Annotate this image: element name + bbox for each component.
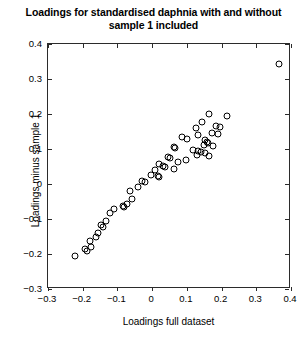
x-tick-mark-top	[117, 287, 118, 291]
data-point	[141, 179, 148, 186]
x-tick-label: 0.2	[214, 293, 227, 304]
y-tick-label: 0.4	[1, 38, 42, 49]
y-tick-mark-right	[285, 114, 289, 115]
x-tick-label: 0.3	[249, 293, 262, 304]
data-point	[205, 153, 212, 160]
y-tick-label: 0.1	[1, 143, 42, 154]
y-tick-mark-right	[285, 184, 289, 185]
data-point	[193, 152, 200, 159]
x-tick-mark-top	[291, 287, 292, 291]
y-tick-label: 0.2	[1, 108, 42, 119]
data-point	[206, 110, 213, 117]
y-tick-mark	[48, 289, 52, 290]
data-point	[194, 132, 201, 139]
x-tick-label: 0.1	[179, 293, 192, 304]
x-tick-mark	[291, 44, 292, 48]
y-tick-mark-right	[285, 79, 289, 80]
scatter-plot-figure: Loadings for standardised daphnia with a…	[0, 0, 307, 339]
y-tick-mark	[48, 79, 52, 80]
x-tick-label: −0.2	[72, 293, 91, 304]
y-tick-mark	[48, 254, 52, 255]
x-tick-mark	[117, 44, 118, 48]
x-tick-mark	[222, 44, 223, 48]
data-point	[193, 125, 200, 132]
y-tick-mark-right	[285, 289, 289, 290]
y-tick-mark	[48, 219, 52, 220]
plot-area	[47, 43, 290, 288]
x-tick-mark	[256, 44, 257, 48]
y-tick-mark-right	[285, 149, 289, 150]
x-tick-mark-top	[256, 287, 257, 291]
data-point	[200, 141, 207, 148]
y-tick-mark	[48, 149, 52, 150]
x-tick-mark	[187, 44, 188, 48]
data-point	[161, 163, 168, 170]
y-tick-label: 0	[1, 178, 42, 189]
data-point	[147, 171, 154, 178]
y-tick-mark-right	[285, 219, 289, 220]
y-tick-label: 0.3	[1, 73, 42, 84]
data-point	[99, 223, 106, 230]
data-point	[107, 209, 114, 216]
y-tick-label: −0.1	[1, 213, 42, 224]
x-tick-mark-top	[222, 287, 223, 291]
x-tick-label: 0.4	[283, 293, 296, 304]
data-point	[183, 156, 190, 163]
data-point	[199, 119, 206, 126]
y-tick-label: −0.3	[1, 283, 42, 294]
data-point	[72, 253, 79, 260]
data-point	[184, 135, 191, 142]
data-point	[171, 165, 178, 172]
data-point	[275, 61, 282, 68]
y-tick-mark-right	[285, 44, 289, 45]
x-axis-label: Loadings full dataset	[47, 316, 290, 327]
y-tick-mark	[48, 44, 52, 45]
data-point	[121, 204, 128, 211]
chart-title-line-1: Loadings for standardised daphnia with a…	[18, 6, 289, 19]
y-tick-mark	[48, 184, 52, 185]
x-tick-label: −0.3	[38, 293, 57, 304]
chart-title: Loadings for standardised daphnia with a…	[18, 6, 289, 32]
data-point	[172, 144, 179, 151]
data-point	[126, 188, 133, 195]
chart-title-line-2: sample 1 included	[18, 19, 289, 32]
x-tick-mark-top	[187, 287, 188, 291]
data-point	[155, 173, 162, 180]
x-tick-mark-top	[83, 287, 84, 291]
x-tick-mark-top	[152, 287, 153, 291]
x-tick-label: 0	[148, 293, 153, 304]
x-tick-mark	[152, 44, 153, 48]
data-point	[83, 247, 90, 254]
data-point	[215, 130, 222, 137]
data-point	[166, 155, 173, 162]
x-tick-label: −0.1	[107, 293, 126, 304]
data-point	[135, 183, 142, 190]
data-point	[209, 143, 216, 150]
y-tick-mark	[48, 114, 52, 115]
y-tick-label: −0.2	[1, 248, 42, 259]
x-tick-mark	[83, 44, 84, 48]
data-point	[223, 113, 230, 120]
y-tick-mark-right	[285, 254, 289, 255]
